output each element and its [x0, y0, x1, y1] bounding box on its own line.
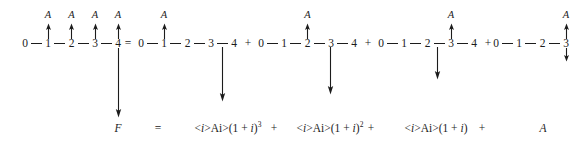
timeline-node: 1	[512, 38, 526, 50]
timeline-node: 4	[227, 38, 241, 50]
compound-amount-arrow-down-icon	[433, 47, 442, 80]
timeline-node: 3	[204, 38, 218, 50]
timeline-node: 0	[374, 38, 388, 50]
equation-term-4: A	[539, 122, 546, 134]
timeline-node: 0	[134, 38, 148, 50]
compound-amount-arrow-down-icon	[326, 47, 335, 95]
cash-flow-label-a: A	[443, 10, 459, 21]
timeline-node: 1	[397, 38, 411, 50]
cash-inflow-arrow-up-icon	[303, 23, 312, 39]
cash-inflow-arrow-up-icon	[160, 23, 169, 39]
timeline-node: 1	[41, 38, 55, 50]
cash-inflow-arrow-up-icon	[447, 23, 456, 39]
timeline-node: 4	[347, 38, 361, 50]
timeline-segment	[525, 43, 536, 44]
cash-inflow-arrow-up-icon	[91, 23, 100, 39]
equation-operator-equals: =	[155, 122, 162, 134]
cash-flow-label-a: A	[156, 10, 172, 21]
timeline-segment	[290, 43, 301, 44]
timeline-node: 2	[65, 38, 79, 50]
equation-operator-plus: +	[368, 122, 375, 134]
cash-inflow-arrow-up-icon	[67, 23, 76, 39]
timeline-segment	[410, 43, 421, 44]
equation-operator-plus: +	[479, 122, 486, 134]
timeline-node: 0	[18, 38, 32, 50]
equation-symbol-f: F	[114, 122, 121, 134]
equation-term-2-exponent: 2	[360, 120, 364, 129]
cash-inflow-arrow-up-icon	[44, 23, 53, 39]
cash-flow-label-a: A	[110, 10, 126, 21]
cash-flow-diagram-figure: 0 1 2 3 4 A A A A = 0 1 2 3 4 A + 0 1	[0, 0, 575, 151]
equation-term-1: <i>Ai>(1 + i)3	[195, 122, 262, 134]
equation-term-1-exponent: 3	[258, 120, 262, 129]
cash-inflow-arrow-up-icon	[114, 23, 123, 39]
equation-operator-plus: +	[271, 122, 278, 134]
timeline-node: 2	[536, 38, 550, 50]
cash-outflow-arrow-down-icon	[562, 48, 571, 62]
timeline-node: 3	[444, 38, 458, 50]
timeline-segment	[170, 43, 181, 44]
timeline-node: 1	[277, 38, 291, 50]
cash-flow-label-a: A	[558, 10, 574, 21]
equation-term-4-base: A	[539, 122, 546, 134]
timeline-segment	[54, 43, 65, 44]
cash-flow-label-a: A	[64, 10, 80, 21]
timeline-node: 0	[489, 38, 503, 50]
timeline-node: 3	[88, 38, 102, 50]
compound-amount-arrow-down-icon	[218, 47, 227, 102]
equation-term-1-base: <i>Ai>(1 + i)	[195, 122, 258, 134]
future-worth-arrow-down-icon	[114, 48, 123, 118]
timeline-node: 0	[254, 38, 268, 50]
cash-inflow-arrow-up-icon	[562, 23, 571, 39]
equation-term-future-worth: F	[114, 122, 121, 134]
timeline-node: 2	[301, 38, 315, 50]
timeline-node: 4	[467, 38, 481, 50]
equation-term-2-base: <i>Ai>(1 + i)	[297, 122, 360, 134]
timeline-node: 1	[157, 38, 171, 50]
equation-term-3-base: <i>Ai>(1 + i)	[404, 122, 467, 134]
equation-term-3: <i>Ai>(1 + i)	[404, 122, 467, 134]
cash-flow-label-a: A	[300, 10, 316, 21]
timeline-node: 2	[181, 38, 195, 50]
cash-flow-label-a: A	[87, 10, 103, 21]
cash-flow-label-a: A	[40, 10, 56, 21]
equation-term-2: <i>Ai>(1 + i)2	[297, 122, 364, 134]
